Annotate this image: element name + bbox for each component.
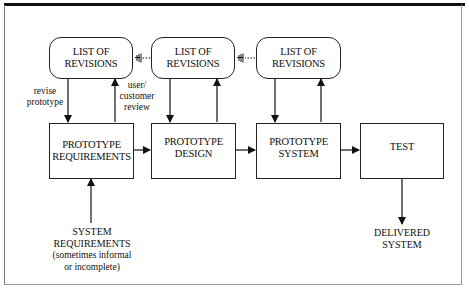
test-label: TEST — [390, 141, 414, 152]
revisions-box-2: LIST OFREVISIONS — [151, 37, 235, 79]
revisions-box-1: LIST OFREVISIONS — [49, 37, 133, 79]
revisions-box-3: LIST OFREVISIONS — [256, 37, 341, 79]
dotted-connector-2 — [237, 54, 255, 63]
prototype-requirements-line2: REQUIREMENTS — [52, 151, 131, 162]
delivered-system-output: DELIVERED SYSTEM — [368, 227, 436, 250]
revisions-box-3-line1: LIST OF — [280, 46, 317, 57]
test-box: TEST — [360, 123, 444, 179]
revise-label-line1: revise — [34, 86, 57, 96]
prototype-requirements-line1: PROTOTYPE — [62, 139, 121, 150]
revisions-box-2-line1: LIST OF — [175, 46, 212, 57]
output-line2: SYSTEM — [382, 239, 421, 250]
system-requirements-input: SYSTEM REQUIREMENTS (sometimes informal … — [36, 226, 148, 273]
input-line3: (sometimes informal — [53, 250, 132, 260]
input-line1: SYSTEM — [72, 226, 111, 237]
revisions-box-1-line2: REVISIONS — [64, 58, 117, 69]
revise-prototype-label: reviseprototype — [20, 86, 70, 108]
input-line4: or incomplete) — [64, 262, 120, 272]
review-label-line1: user/ — [128, 80, 146, 90]
prototype-system-line1: PROTOTYPE — [269, 136, 328, 147]
prototype-system-box: PROTOTYPESYSTEM — [256, 123, 341, 179]
prototype-requirements-box: PROTOTYPEREQUIREMENTS — [49, 123, 134, 179]
dotted-connector-1 — [135, 54, 150, 63]
input-line2: REQUIREMENTS — [53, 238, 130, 249]
revisions-box-1-line1: LIST OF — [73, 46, 110, 57]
prototype-design-box: PROTOTYPEDESIGN — [151, 123, 236, 179]
user-customer-review-label: user/customerreview — [116, 80, 158, 113]
prototype-design-line2: DESIGN — [175, 148, 212, 159]
revise-label-line2: prototype — [27, 97, 63, 107]
review-label-line2: customer — [120, 91, 155, 101]
revisions-box-3-line2: REVISIONS — [272, 58, 325, 69]
revisions-box-2-line2: REVISIONS — [166, 58, 219, 69]
review-label-line3: review — [124, 102, 150, 112]
output-line1: DELIVERED — [374, 227, 430, 238]
prototype-design-line1: PROTOTYPE — [164, 136, 223, 147]
prototype-system-line2: SYSTEM — [278, 148, 318, 159]
